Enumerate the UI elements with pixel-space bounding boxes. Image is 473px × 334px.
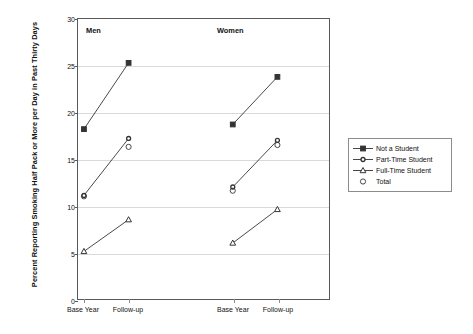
x-axis-tick-mark	[84, 299, 85, 303]
chart-figure: Percent Reporting Smoking Half Pack or M…	[0, 0, 473, 334]
legend-marker-filled-square-icon	[352, 143, 374, 154]
legend-marker-small-circle-icon	[352, 154, 374, 165]
legend-item[interactable]: Total	[352, 176, 447, 187]
series-line	[84, 138, 129, 195]
data-point	[81, 248, 87, 253]
y-axis-tick-label: 30	[67, 16, 75, 23]
y-axis-tick-label: 10	[67, 204, 75, 211]
series-line	[233, 209, 278, 243]
data-point	[127, 136, 131, 140]
legend-item[interactable]: Full-Time Student	[352, 165, 447, 176]
x-axis-tick-label: Base Year	[67, 306, 99, 313]
x-axis-tick-mark	[234, 299, 235, 303]
plot-area: 051015202530 Men Women	[77, 18, 330, 300]
legend-item-label: Not a Student	[374, 145, 419, 152]
x-axis-tick-mark	[279, 299, 280, 303]
y-axis-tick-label: 25	[67, 63, 75, 70]
data-point	[275, 138, 279, 142]
legend-marker-triangle-icon	[352, 165, 374, 176]
x-axis-tick-label: Base Year	[217, 306, 249, 313]
series-not-a-student	[82, 60, 280, 131]
data-point	[82, 127, 87, 132]
data-point	[126, 217, 132, 222]
data-point	[275, 206, 281, 211]
legend-item[interactable]: Part-Time Student	[352, 154, 447, 165]
data-point	[230, 240, 236, 245]
series-line	[84, 220, 129, 252]
x-axis-tick-mark	[129, 299, 130, 303]
data-point	[275, 142, 280, 147]
series-full-time-student	[81, 206, 280, 253]
data-point	[230, 122, 235, 127]
y-axis-tick-mark	[75, 301, 78, 302]
data-point	[275, 74, 280, 79]
legend-item-label: Full-Time Student	[374, 167, 431, 174]
series-line	[233, 140, 278, 187]
legend-marker-open-circle-icon	[352, 176, 374, 187]
legend: Not a StudentPart-Time StudentFull-Time …	[348, 138, 452, 192]
legend-item-label: Total	[374, 178, 391, 185]
data-point	[126, 144, 131, 149]
series-part-time-student	[82, 136, 279, 197]
series-line	[233, 77, 278, 125]
legend-item[interactable]: Not a Student	[352, 143, 447, 154]
data-point	[126, 60, 131, 65]
y-axis-title: Percent Reporting Smoking Half Pack or M…	[30, 5, 39, 305]
y-axis-tick-label: 15	[67, 157, 75, 164]
x-axis-tick-label: Follow-up	[113, 306, 143, 313]
data-series-layer	[78, 19, 329, 299]
legend-item-label: Part-Time Student	[374, 156, 433, 163]
y-axis-tick-label: 20	[67, 110, 75, 117]
series-line	[84, 63, 129, 129]
x-axis-tick-label: Follow-up	[263, 306, 293, 313]
series-total	[81, 142, 280, 198]
